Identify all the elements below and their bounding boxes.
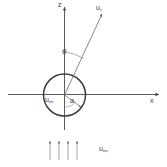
x-axis-label: x: [150, 97, 154, 104]
scattering-diagram: z x us θ uint a uinc: [0, 0, 167, 167]
z-axis-label: z: [58, 1, 62, 8]
scattered-ray: [65, 14, 103, 95]
scattered-field-label: us: [96, 4, 102, 12]
incident-arrows: [50, 141, 77, 160]
radius-label: a: [70, 97, 74, 104]
internal-field-subscript: int: [49, 99, 54, 104]
theta-angle-label: θ: [62, 48, 66, 56]
internal-field-label: uint: [45, 96, 53, 104]
incident-field-subscript: inc: [103, 148, 109, 153]
incident-field-label: uinc: [99, 145, 108, 153]
theta-arc: [65, 52, 84, 59]
scattered-field-subscript: s: [100, 7, 102, 12]
diagram-canvas: [0, 0, 167, 167]
